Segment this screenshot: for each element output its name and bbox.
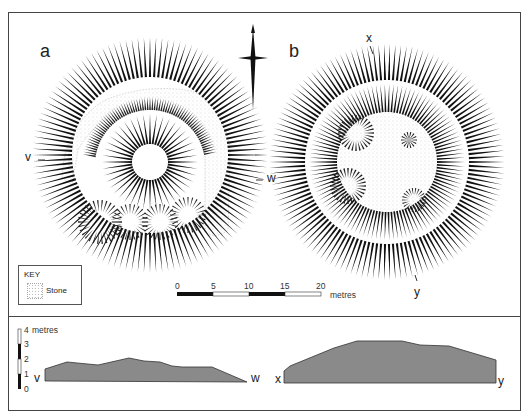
- scale-tick: 15: [280, 282, 289, 291]
- vscale-tick: 4: [24, 326, 29, 335]
- scale-bar: [177, 292, 321, 296]
- section-label-v: v: [34, 372, 40, 384]
- section-label-w: w: [251, 372, 260, 384]
- key-title: KEY: [24, 270, 40, 279]
- vscale-tick: 2: [24, 355, 29, 364]
- section-marker-y: y: [414, 286, 420, 298]
- scale-tick: 0: [175, 282, 180, 291]
- plan-b-label: b: [289, 42, 299, 60]
- key-item-stone: Stone: [46, 286, 67, 295]
- section-marker-w: w: [267, 172, 276, 184]
- vscale-unit: metres: [32, 326, 58, 335]
- section-profile-vw: [45, 358, 247, 382]
- section-label-x: x: [275, 373, 281, 385]
- vertical-scale-bar: [18, 329, 21, 389]
- vscale-tick: 1: [24, 370, 29, 379]
- plan-drawings: [0, 0, 528, 415]
- scale-tick: 5: [211, 282, 216, 291]
- section-profile-xy: [284, 341, 496, 383]
- section-marker-v: v: [25, 151, 31, 163]
- vscale-tick: 0: [24, 385, 29, 394]
- section-marker-x: x: [366, 32, 372, 44]
- section-label-y: y: [498, 375, 504, 387]
- north-arrow-icon: [238, 24, 268, 110]
- scale-tick: 20: [316, 282, 325, 291]
- stone-stipple-icon: [27, 283, 43, 299]
- scale-tick: 10: [244, 282, 253, 291]
- plan-a-label: a: [40, 42, 50, 60]
- vscale-tick: 3: [24, 340, 29, 349]
- scale-unit: metres: [330, 291, 356, 300]
- legend-key: KEY Stone: [18, 265, 82, 305]
